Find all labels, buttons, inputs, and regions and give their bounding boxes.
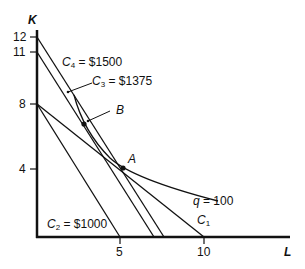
label-c1: C1	[197, 213, 211, 228]
leader-b-dot	[87, 120, 90, 123]
isoquant-curve	[74, 95, 218, 201]
tick-label-8: 8	[19, 97, 26, 111]
leader-c3-dot	[67, 91, 70, 94]
tick-label-10: 10	[197, 245, 211, 259]
isoquant-diagram: K L 12 11 8 4 5 10 C4 = $1500 C3 = $1375…	[0, 0, 305, 269]
label-isoquant: q = 100	[193, 194, 234, 208]
label-c4: C4 = $1500	[62, 55, 122, 70]
tick-label-12: 12	[13, 30, 27, 44]
tick-label-5: 5	[116, 245, 123, 259]
leader-c3	[68, 83, 92, 92]
label-c3: C3 = $1375	[92, 74, 152, 89]
l-axis-label: L	[284, 245, 291, 259]
point-b	[81, 121, 86, 126]
point-a	[120, 165, 125, 170]
label-point-a: A	[127, 152, 136, 166]
label-c2: C2 = $1000	[47, 217, 107, 232]
tick-label-4: 4	[19, 162, 26, 176]
k-axis-label: K	[28, 13, 38, 27]
label-point-b: B	[116, 103, 124, 117]
leader-b	[88, 111, 110, 121]
tick-label-11: 11	[13, 45, 26, 59]
